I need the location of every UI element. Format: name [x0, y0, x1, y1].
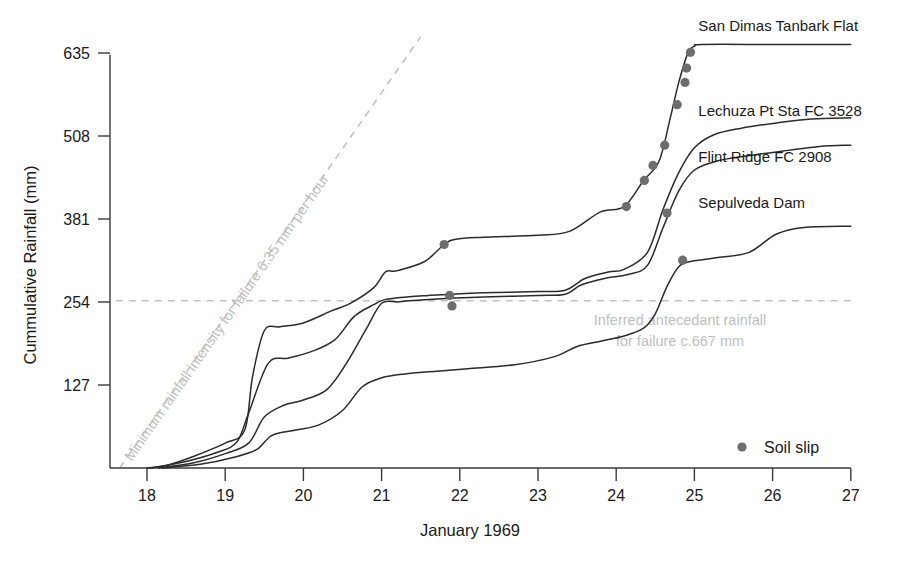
soil-slip-marker	[682, 63, 691, 72]
series-line-2	[151, 118, 851, 468]
soil-slip-marker	[673, 100, 682, 109]
soil-slip-marker	[447, 301, 456, 310]
x-axis-tick-label: 21	[373, 487, 391, 504]
series-label-3: Flint Ridge FC 2908	[698, 148, 831, 165]
soil-slip-marker	[680, 78, 689, 87]
x-axis-tick-label: 22	[451, 487, 469, 504]
soil-slip-marker	[678, 256, 687, 265]
labels-group: January 1969Cummulative Rainfall (mm)San…	[21, 17, 862, 539]
chart-figure: Minimum rainfall intensity for failure 6…	[0, 0, 898, 567]
series-label-4: Sepulveda Dam	[698, 194, 805, 211]
y-axis-tick-label: 635	[63, 45, 90, 62]
y-axis-tick-label: 127	[63, 377, 90, 394]
soil-slip-marker	[648, 161, 657, 170]
soil-slip-marker	[660, 141, 669, 150]
y-axis-title: Cummulative Rainfall (mm)	[21, 166, 39, 365]
x-axis-tick-label: 19	[216, 487, 234, 504]
inferred-antecedant-annotation-line1: Inferred antecedant rainfall	[594, 312, 767, 328]
minimum-intensity-annotation-label: Minimum rainfall intensity for failure 6…	[121, 171, 332, 464]
soil-slip-marker	[622, 202, 631, 211]
inferred-antecedant-annotation-line2: for failure c.667 mm	[616, 333, 744, 349]
rainfall-cumulative-chart: Minimum rainfall intensity for failure 6…	[0, 0, 898, 567]
soil-slip-marker	[440, 240, 449, 249]
x-axis-tick-label: 20	[295, 487, 313, 504]
legend-soil-slip-label: Soil slip	[764, 439, 819, 456]
soil-slip-marker	[662, 209, 671, 218]
y-axis-tick-label: 381	[63, 211, 90, 228]
x-axis-tick-label: 18	[138, 487, 156, 504]
y-axis-tick-label: 254	[63, 294, 90, 311]
series-label-2: Lechuza Pt Sta FC 3528	[698, 102, 861, 119]
x-axis-tick-label: 26	[764, 487, 782, 504]
x-axis-tick-label: 25	[686, 487, 704, 504]
series-label-1: San Dimas Tanbark Flat	[698, 17, 859, 34]
guide-lines-group: Minimum rainfall intensity for failure 6…	[116, 37, 851, 468]
x-axis-tick-label: 27	[842, 487, 860, 504]
x-axis-tick-label: 23	[529, 487, 547, 504]
soil-slip-marker	[640, 176, 649, 185]
soil-slip-marker	[686, 48, 695, 57]
legend-soil-slip-marker-icon	[737, 442, 746, 451]
x-axis-title: January 1969	[420, 521, 520, 539]
y-axis-tick-label: 508	[63, 128, 90, 145]
soil-slip-markers-group	[440, 48, 696, 311]
soil-slip-marker	[445, 291, 454, 300]
x-axis-tick-label: 24	[607, 487, 625, 504]
